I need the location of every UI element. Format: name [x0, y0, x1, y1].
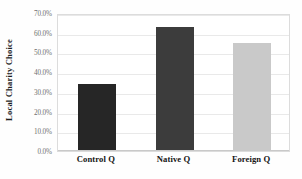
plot-area: [57, 14, 290, 152]
bar-chart-figure: Local Charity Choice 0.0%10.0%20.0%30.0%…: [0, 0, 302, 179]
y-tick-label: 40.0%: [34, 69, 52, 77]
y-tick-label: 20.0%: [34, 109, 52, 117]
x-tick-label: Native Q: [157, 154, 191, 164]
y-tick-label: 50.0%: [34, 49, 52, 57]
y-tick-label: 30.0%: [34, 89, 52, 97]
y-tick-label: 60.0%: [34, 30, 52, 38]
bar: [156, 27, 194, 151]
bars-layer: [58, 15, 289, 151]
bar: [78, 84, 116, 151]
x-tick-label: Control Q: [77, 154, 115, 164]
y-axis-title: Local Charity Choice: [0, 0, 18, 160]
y-axis-tick-labels: 0.0%10.0%20.0%30.0%40.0%50.0%60.0%70.0%: [18, 14, 54, 152]
x-tick-label: Foreign Q: [232, 154, 270, 164]
x-axis-baseline: [58, 150, 289, 151]
y-tick-label: 70.0%: [34, 10, 52, 18]
y-tick-label: 0.0%: [37, 148, 52, 156]
y-axis-title-label: Local Charity Choice: [4, 39, 14, 121]
x-axis-tick-labels: Control QNative QForeign Q: [57, 154, 290, 172]
bar: [233, 43, 271, 151]
y-tick-label: 10.0%: [34, 128, 52, 136]
